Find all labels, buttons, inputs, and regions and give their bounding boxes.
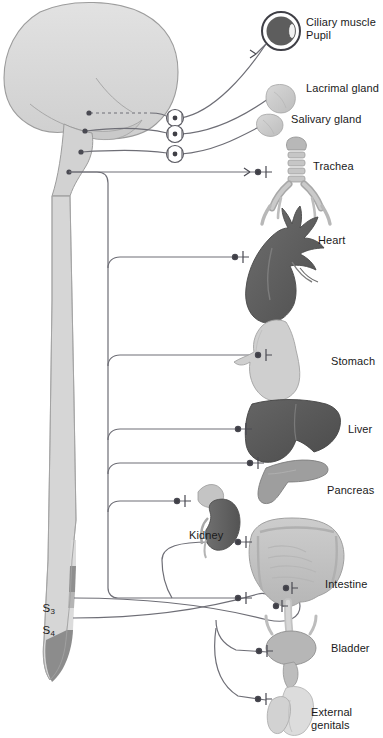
pancreas-organ [258, 460, 328, 504]
kidney-with-adrenal-organ [198, 485, 240, 558]
trachea-organ [262, 137, 330, 224]
heart-organ [246, 206, 324, 323]
label-genitals: genitals [311, 719, 350, 732]
label-intestine: Intestine [325, 578, 367, 591]
submandibular-ganglion [167, 146, 184, 163]
liver-organ [245, 400, 340, 463]
label-salivary-gland: Salivary gland [291, 113, 362, 126]
label-kidney: Kidney [189, 529, 223, 542]
eye-with-pupil-organ [256, 12, 300, 54]
diagram-canvas: Ciliary muscle Pupil Lacrimal gland Sali… [0, 0, 383, 738]
label-liver: Liver [348, 423, 372, 436]
label-stomach: Stomach [331, 355, 375, 368]
label-trachea: Trachea [313, 160, 354, 173]
ganglia-circles [167, 110, 184, 163]
segment-number-s4: 4 [50, 629, 55, 638]
pterygopalatine-ganglion [167, 126, 184, 143]
lacrimal-gland-organ [266, 84, 295, 113]
label-pupil: Pupil [306, 29, 331, 42]
stomach-organ [234, 320, 300, 401]
salivary-gland-organ [256, 114, 283, 136]
label-lacrimal-gland: Lacrimal gland [306, 82, 379, 95]
label-ciliary-muscle: Ciliary muscle [306, 16, 376, 29]
sacral-outflow-pathways [73, 588, 300, 700]
brain [4, 2, 178, 196]
label-pancreas: Pancreas [327, 484, 374, 497]
organ-leader-markers [250, 50, 256, 58]
label-external: External [311, 706, 352, 719]
parasympathetic-nervous-system-diagram [0, 0, 383, 738]
spinal-segment-label-s4: S4 [36, 611, 55, 638]
external-genitals-organ [267, 686, 313, 735]
label-heart: Heart [318, 234, 345, 247]
label-bladder: Bladder [331, 642, 370, 655]
ciliary-ganglion [167, 110, 184, 127]
